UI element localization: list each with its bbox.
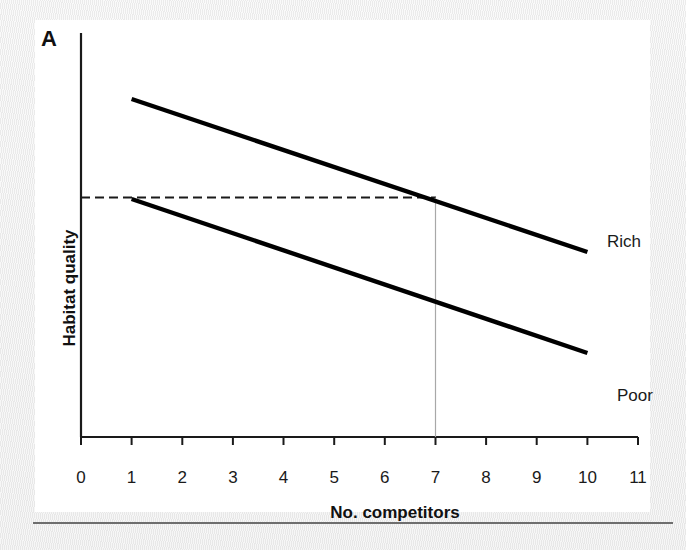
panel-letter-a: A <box>41 26 57 52</box>
series-label-rich: Rich <box>607 232 641 252</box>
series-line-poor <box>132 199 588 353</box>
series-line-rich <box>132 99 588 252</box>
x-axis-ticks <box>81 437 638 445</box>
x-tick-label-10: 10 <box>567 468 607 488</box>
x-tick-label-3: 3 <box>213 468 253 488</box>
x-tick-label-2: 2 <box>162 468 202 488</box>
x-tick-label-5: 5 <box>314 468 354 488</box>
chart-plot-area <box>35 20 650 512</box>
x-tick-label-1: 1 <box>112 468 152 488</box>
figure-panel: 0 1 2 3 4 5 6 7 8 9 10 11 Rich Poor No. … <box>35 20 650 512</box>
x-tick-label-4: 4 <box>264 468 304 488</box>
bottom-divider-rule <box>33 522 673 524</box>
x-tick-label-7: 7 <box>416 468 456 488</box>
x-tick-label-0: 0 <box>61 468 101 488</box>
x-tick-label-9: 9 <box>517 468 557 488</box>
series-label-poor: Poor <box>617 386 653 406</box>
y-axis-title: Habitat quality <box>60 198 80 378</box>
x-tick-label-8: 8 <box>466 468 506 488</box>
figure-page: 0 1 2 3 4 5 6 7 8 9 10 11 Rich Poor No. … <box>0 0 686 550</box>
x-tick-label-6: 6 <box>365 468 405 488</box>
x-axis-title: No. competitors <box>116 503 674 523</box>
x-tick-label-11: 11 <box>618 468 658 488</box>
